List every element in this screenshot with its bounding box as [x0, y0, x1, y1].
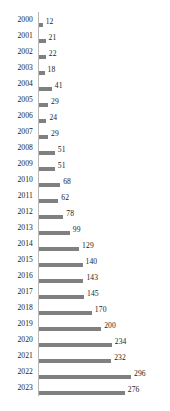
bar-and-label: 22	[39, 44, 57, 60]
bar-and-label: 29	[39, 124, 59, 140]
bar	[39, 391, 125, 395]
category-label: 2016	[17, 268, 33, 284]
bar-row: 201278	[0, 204, 170, 220]
category-label: 2009	[17, 156, 33, 172]
bar-and-label: 51	[39, 156, 66, 172]
bar	[39, 311, 92, 315]
bar-row: 2015140	[0, 252, 170, 268]
bar-chart: 2000122001212002222003182004412005292006…	[0, 0, 170, 411]
bar	[39, 359, 111, 363]
bar	[39, 327, 101, 331]
bar	[39, 263, 83, 267]
bar-and-label: 21	[39, 28, 56, 44]
bar	[39, 247, 79, 251]
bar	[39, 295, 84, 299]
bar	[39, 151, 55, 155]
bar-row: 200624	[0, 108, 170, 124]
plot-area: 2000122001212002222003182004412005292006…	[0, 12, 170, 396]
category-label: 2001	[17, 28, 33, 44]
bar-and-label: 18	[39, 60, 55, 76]
bar-row: 2022296	[0, 364, 170, 380]
bar-and-label: 129	[39, 236, 94, 252]
bar-row: 201399	[0, 220, 170, 236]
bar-row: 200121	[0, 28, 170, 44]
category-label: 2002	[17, 44, 33, 60]
bar-and-label: 99	[39, 220, 81, 236]
bar-row: 2023276	[0, 380, 170, 396]
bar-and-label: 232	[39, 348, 126, 364]
bar	[39, 135, 48, 139]
bar-and-label: 145	[39, 284, 99, 300]
category-label: 2013	[17, 220, 33, 236]
category-label: 2005	[17, 92, 33, 108]
bar-row: 200851	[0, 140, 170, 156]
bar-row: 201162	[0, 188, 170, 204]
bar-and-label: 140	[39, 252, 97, 268]
bar-and-label: 68	[39, 172, 71, 188]
bar-and-label: 78	[39, 204, 74, 220]
category-label: 2015	[17, 252, 33, 268]
bar-row: 200729	[0, 124, 170, 140]
category-label: 2010	[17, 172, 33, 188]
bar	[39, 87, 52, 91]
category-label: 2018	[17, 300, 33, 316]
bar-and-label: 62	[39, 188, 69, 204]
bar-and-label: 51	[39, 140, 66, 156]
category-label: 2023	[17, 380, 33, 396]
value-label: 276	[128, 382, 140, 398]
category-label: 2003	[17, 60, 33, 76]
bar	[39, 183, 60, 187]
bar-row: 2019200	[0, 316, 170, 332]
bar	[39, 199, 58, 203]
category-label: 2021	[17, 348, 33, 364]
bar-row: 2017145	[0, 284, 170, 300]
bar	[39, 23, 43, 27]
bar-and-label: 200	[39, 316, 116, 332]
category-label: 2000	[17, 12, 33, 28]
bar-and-label: 234	[39, 332, 126, 348]
bar-row: 200012	[0, 12, 170, 28]
category-label: 2008	[17, 140, 33, 156]
bar-row: 2018170	[0, 300, 170, 316]
category-label: 2007	[17, 124, 33, 140]
bar-and-label: 170	[39, 300, 107, 316]
bar-row: 201068	[0, 172, 170, 188]
bar-row: 200529	[0, 92, 170, 108]
bar-and-label: 29	[39, 92, 59, 108]
bar-row: 2014129	[0, 236, 170, 252]
bar	[39, 215, 63, 219]
bar	[39, 103, 48, 107]
bar-row: 200318	[0, 60, 170, 76]
bar-row: 200222	[0, 44, 170, 60]
bar	[39, 375, 131, 379]
bar	[39, 71, 45, 75]
category-label: 2006	[17, 108, 33, 124]
bar-and-label: 143	[39, 268, 98, 284]
bar-row: 2020234	[0, 332, 170, 348]
bar-and-label: 296	[39, 364, 146, 380]
bar-and-label: 41	[39, 76, 63, 92]
category-label: 2012	[17, 204, 33, 220]
category-label: 2020	[17, 332, 33, 348]
bar	[39, 279, 83, 283]
bar	[39, 119, 46, 123]
bar-row: 200441	[0, 76, 170, 92]
category-label: 2017	[17, 284, 33, 300]
category-label: 2011	[18, 188, 33, 204]
bar-row: 2016143	[0, 268, 170, 284]
bar	[39, 55, 46, 59]
bar	[39, 39, 46, 43]
bar-row: 2021232	[0, 348, 170, 364]
bar-and-label: 24	[39, 108, 57, 124]
bar-and-label: 276	[39, 380, 140, 396]
bar-row: 200951	[0, 156, 170, 172]
bar	[39, 231, 70, 235]
bar	[39, 343, 112, 347]
bar-and-label: 12	[39, 12, 54, 28]
category-label: 2022	[17, 364, 33, 380]
category-label: 2004	[17, 76, 33, 92]
bar	[39, 167, 55, 171]
category-label: 2019	[17, 316, 33, 332]
category-label: 2014	[17, 236, 33, 252]
